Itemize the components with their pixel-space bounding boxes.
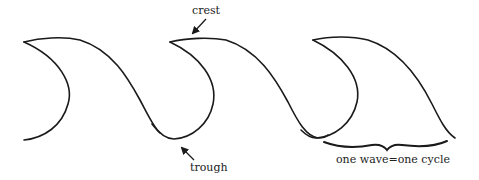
trough-arrow <box>182 148 194 160</box>
wave-1-inner-curve <box>24 42 69 140</box>
crest-label: crest <box>192 5 220 16</box>
cycle-label: one wave=one cycle <box>336 154 450 165</box>
wave-3-inner-curve <box>301 40 358 138</box>
trough-label: trough <box>190 162 228 173</box>
wave-3 <box>301 37 455 138</box>
wave-1 <box>24 38 160 140</box>
wave-2 <box>152 38 328 139</box>
wave-1-outer-curve <box>24 38 160 133</box>
wave-2-inner-curve <box>152 42 214 139</box>
wave-3-outer-curve <box>313 37 455 138</box>
cycle-brace <box>324 141 447 150</box>
crest-arrow <box>193 19 206 33</box>
wave-2-outer-curve <box>170 38 328 138</box>
